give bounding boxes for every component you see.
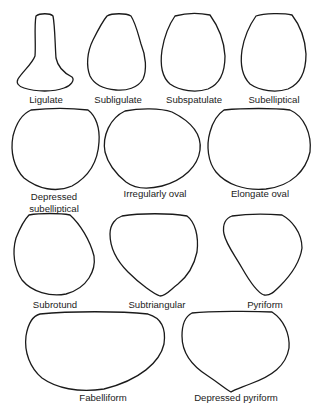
- shape-subspatulate: Subspatulate: [161, 14, 225, 105]
- subelliptical-outline: [241, 14, 306, 91]
- shape-elongate-oval: Elongate oval: [208, 109, 310, 200]
- shape-depressed-subelliptical: Depressed subelliptical: [12, 109, 99, 215]
- label-subligulate: Subligulate: [94, 94, 141, 105]
- label-fabelliform: Fabelliform: [79, 392, 126, 403]
- shape-subtriangular: Subtriangular: [110, 214, 198, 310]
- label-subelliptical: Subelliptical: [248, 94, 299, 105]
- shape-subelliptical: Subelliptical: [241, 14, 306, 105]
- ligulate-outline: [17, 14, 73, 91]
- label-ligulate: Ligulate: [29, 94, 63, 105]
- label-elongate-oval: Elongate oval: [231, 188, 289, 199]
- shape-pyriform: Pyriform: [223, 214, 302, 310]
- label-subrotund: Subrotund: [33, 299, 77, 310]
- fabelliform-outline: [26, 312, 165, 391]
- label-subtriangular: Subtriangular: [128, 299, 186, 310]
- shape-irregularly-oval: Irregularly oval: [104, 109, 200, 199]
- label-depressed-subelliptical-line2: subelliptical: [29, 203, 79, 214]
- label-pyriform: Pyriform: [247, 299, 283, 310]
- subligulate-outline: [88, 14, 146, 90]
- label-depressed-subelliptical-line1: Depressed: [31, 191, 77, 202]
- shape-subligulate: Subligulate: [88, 14, 146, 105]
- irregularly-oval-outline: [104, 109, 200, 188]
- depressed-pyriform-outline: [182, 311, 289, 392]
- shape-ligulate: Ligulate: [17, 14, 73, 105]
- depressed-subelliptical-outline: [12, 109, 99, 190]
- shape-subrotund: Subrotund: [14, 214, 94, 311]
- label-depressed-pyriform: Depressed pyriform: [194, 392, 278, 403]
- subspatulate-outline: [161, 14, 225, 91]
- shape-depressed-pyriform: Depressed pyriform: [182, 311, 289, 403]
- label-subspatulate: Subspatulate: [166, 94, 222, 105]
- label-irregularly-oval: Irregularly oval: [124, 188, 187, 199]
- elongate-oval-outline: [208, 109, 310, 190]
- subrotund-outline: [14, 214, 94, 295]
- shape-fabelliform: Fabelliform: [26, 312, 165, 403]
- shape-diagram: Ligulate Subligulate Subspatulate Subell…: [0, 0, 314, 412]
- pyriform-outline: [223, 214, 302, 295]
- subtriangular-outline: [110, 214, 198, 296]
